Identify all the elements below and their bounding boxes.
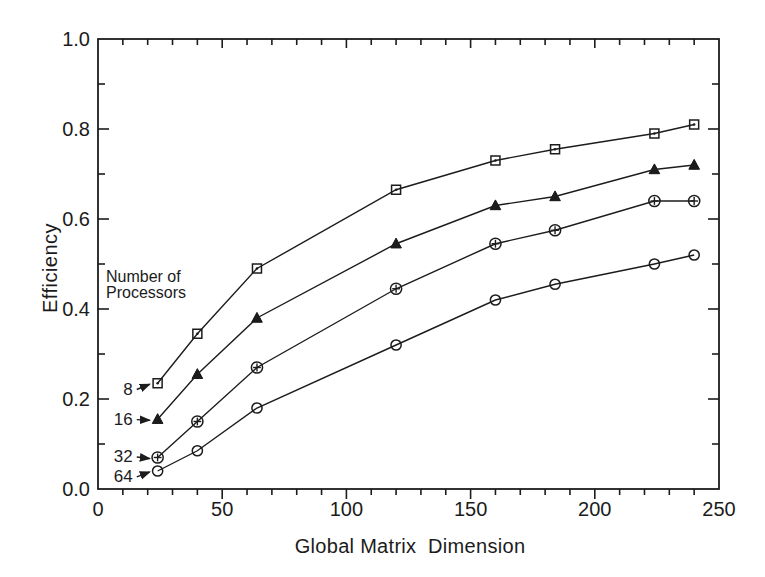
series-8-marker-6-dot	[653, 132, 656, 135]
annotation-label-32: 32	[114, 447, 133, 466]
x-tick-label-100: 100	[330, 498, 363, 520]
annotation-arrow-64	[137, 472, 150, 477]
x-tick-label-250: 250	[702, 498, 735, 520]
y-tick-label-0.6: 0.6	[62, 208, 90, 230]
efficiency-chart-figure: 0501001502002500.00.20.40.60.81.08163264…	[0, 0, 765, 577]
series-32-line	[158, 201, 695, 458]
y-tick-label-1.0: 1.0	[62, 28, 90, 50]
series-64-line	[158, 255, 695, 471]
annotation-arrow-32	[137, 457, 150, 459]
series-8-marker-0-dot	[156, 382, 159, 385]
x-tick-label-200: 200	[578, 498, 611, 520]
x-axis-title: Global Matrix Dimension	[295, 535, 526, 558]
y-tick-label-0.8: 0.8	[62, 118, 90, 140]
annotation-label-8: 8	[123, 380, 132, 399]
annotation-label-16: 16	[114, 410, 133, 429]
y-tick-label-0.4: 0.4	[62, 298, 90, 320]
series-8-marker-5-dot	[554, 148, 557, 151]
annotation-label-64: 64	[114, 467, 133, 486]
series-8-marker-3-dot	[395, 188, 398, 191]
y-tick-label-0.2: 0.2	[62, 388, 90, 410]
legend-title-line-1: Number of	[106, 269, 181, 285]
series-8-marker-2-dot	[256, 267, 259, 270]
series-16-marker-2	[252, 312, 263, 322]
x-tick-label-0: 0	[92, 498, 103, 520]
x-tick-label-150: 150	[454, 498, 487, 520]
annotation-arrow-16	[137, 420, 150, 421]
legend-title-line-2: Processors	[106, 285, 186, 301]
series-8-marker-7-dot	[693, 123, 696, 126]
series-8-line	[158, 125, 695, 384]
series-8-marker-4-dot	[494, 159, 497, 162]
series-8-marker-1-dot	[196, 332, 199, 335]
annotation-arrow-8	[137, 384, 150, 389]
y-tick-label-0.0: 0.0	[62, 478, 90, 500]
y-axis-title: Efficiency	[39, 223, 62, 313]
series-16-marker-7	[689, 159, 700, 169]
x-tick-label-50: 50	[211, 498, 233, 520]
series-16-line	[158, 165, 695, 419]
